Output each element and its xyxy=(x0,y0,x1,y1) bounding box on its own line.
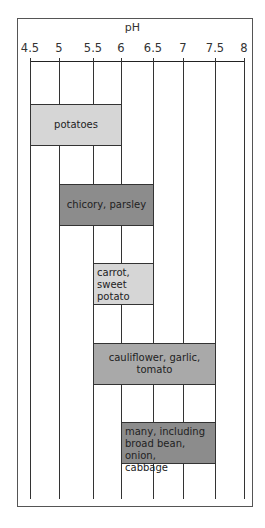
range-bar-label-line: broad bean, onion, xyxy=(125,438,185,461)
x-tick-label: 7.5 xyxy=(206,41,224,55)
range-bar: potatoes xyxy=(30,104,122,146)
x-axis-line xyxy=(30,61,245,62)
range-bar-label-line: potatoes xyxy=(54,119,98,130)
x-axis-title: pH xyxy=(0,21,265,34)
range-bar: carrot,sweet potato xyxy=(93,263,154,305)
range-bar-label-line: cauliflower, garlic, tomato xyxy=(109,352,201,375)
x-tick-label: 5.5 xyxy=(84,41,102,55)
range-bar: chicory, parsley xyxy=(59,184,154,226)
x-tick-label: 6 xyxy=(117,41,124,55)
range-bar-label-line: cabbage xyxy=(125,462,168,473)
range-bar-label: potatoes xyxy=(54,119,98,131)
gridline xyxy=(244,58,245,499)
range-bar-label-line: carrot, xyxy=(97,267,130,278)
range-bar-label-line: chicory, parsley xyxy=(67,199,146,210)
range-bar-label: many, includingbroad bean, onion,cabbage xyxy=(125,426,213,474)
x-tick-label: 4.5 xyxy=(21,41,39,55)
range-bar-label: carrot,sweet potato xyxy=(97,267,151,303)
range-bar: cauliflower, garlic, tomato xyxy=(93,343,216,385)
x-tick-label: 6.5 xyxy=(144,41,162,55)
x-tick-label: 5 xyxy=(55,41,62,55)
range-bar-label-line: many, including xyxy=(125,426,205,437)
range-bar-label: cauliflower, garlic, tomato xyxy=(94,352,215,376)
range-bar-label: chicory, parsley xyxy=(67,199,146,211)
range-bar: many, includingbroad bean, onion,cabbage xyxy=(121,422,216,464)
range-bar-label-line: sweet potato xyxy=(97,279,130,302)
x-tick-label: 8 xyxy=(240,41,247,55)
x-tick-label: 7 xyxy=(179,41,186,55)
